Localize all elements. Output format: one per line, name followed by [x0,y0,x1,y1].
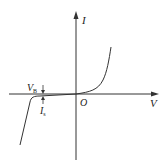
reverse-bias-curve [20,94,76,145]
y-axis-arrow-icon [74,11,79,19]
diagram-svg: I V O VB Is [0,0,166,166]
diode-iv-diagram: I V O VB Is [0,0,166,166]
y-axis-label: I [81,14,87,26]
forward-bias-curve [76,47,111,94]
vb-arrow-icon [41,90,45,94]
saturation-current-label: Is [39,105,46,117]
origin-label: O [80,97,87,108]
x-axis-label: V [150,97,158,109]
is-arrow-icon [41,96,45,100]
x-axis-arrow-icon [151,92,159,97]
breakdown-voltage-label: VB [27,82,37,94]
